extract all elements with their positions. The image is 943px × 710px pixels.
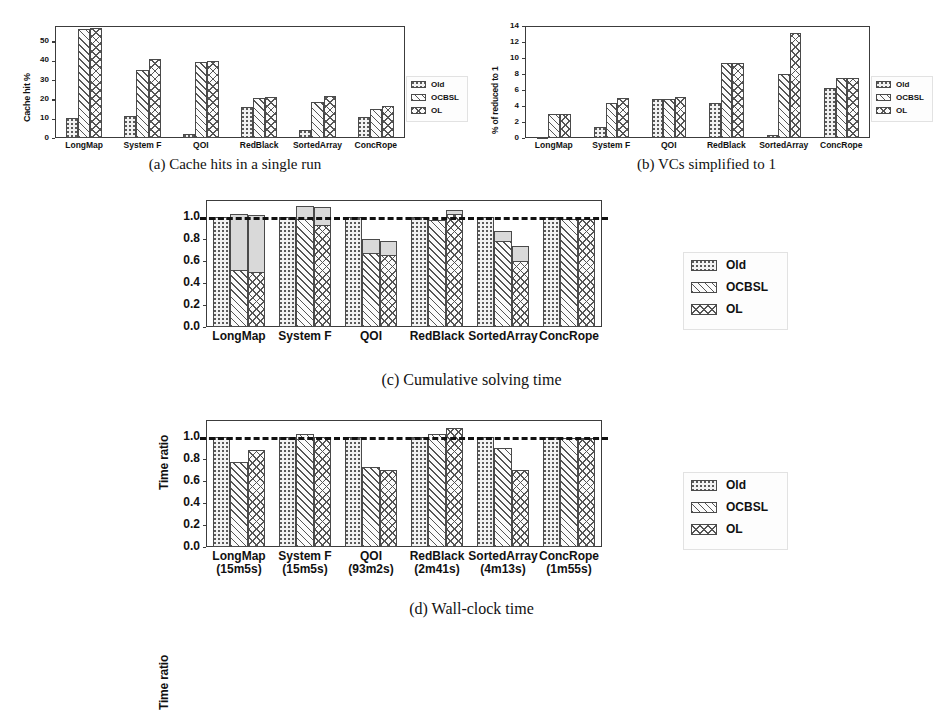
bar-longmap-old — [213, 217, 231, 327]
bar-qoi-ol — [675, 97, 687, 138]
bar-longmap-old — [66, 118, 78, 138]
y-tick-label: 12 — [507, 38, 519, 46]
y-tick-label: 0.8 — [172, 232, 200, 244]
legend-entry-ol[interactable]: OL — [876, 106, 928, 115]
panel-d-caption: (d) Wall-clock time — [0, 600, 943, 618]
bar-longmap-ocbsl — [230, 462, 248, 547]
y-tick-mark — [203, 503, 207, 504]
panel-d: Time ratio 0.00.20.40.60.81.0 LongMap(15… — [0, 405, 943, 656]
legend-swatch-ol-icon — [691, 524, 717, 535]
legend-entry-ol[interactable]: OL — [691, 302, 780, 316]
bar-sortedarray-ol — [512, 261, 530, 327]
legend-entry-ocbsl[interactable]: OCBSL — [876, 93, 928, 102]
legend-entry-ocbsl[interactable]: OCBSL — [411, 93, 463, 102]
legend-swatch-ol-icon — [691, 304, 717, 315]
y-tick-label: 0.2 — [172, 298, 200, 310]
legend-swatch-ocbsl-icon — [411, 94, 426, 101]
y-tick-mark — [52, 61, 56, 62]
panel-c-caption: (c) Cumulative solving time — [0, 371, 943, 389]
y-tick-label: 50 — [33, 37, 49, 45]
legend-entry-ol[interactable]: OL — [691, 522, 780, 536]
bar-sortedarray-ol — [790, 33, 802, 138]
y-tick-label: 0.6 — [172, 474, 200, 486]
bar-redblack-old — [709, 103, 721, 138]
x-tick-sublabel: (1m55s) — [530, 563, 608, 576]
bar-concrope-ol — [578, 438, 596, 547]
legend-entry-ocbsl[interactable]: OCBSL — [691, 500, 780, 514]
x-tick-label-concrope: ConcRope — [530, 330, 608, 343]
y-tick-label: 1.0 — [172, 210, 200, 222]
y-tick-label: 10 — [33, 114, 49, 122]
x-tick-label-system-f: System F — [579, 141, 643, 151]
bar-system-f-ocbsl — [606, 103, 618, 138]
y-tick-mark — [52, 119, 56, 120]
bar-redblack-old — [411, 437, 429, 547]
panel-a-plot-area — [55, 26, 405, 138]
bar-overhead-cap — [512, 246, 530, 261]
legend-label-ol: OL — [896, 106, 907, 115]
bar-redblack-ocbsl — [428, 220, 446, 327]
bar-system-f-old — [279, 437, 297, 547]
bar-overhead-cap — [380, 241, 398, 256]
y-tick-mark — [522, 26, 526, 27]
legend-entry-ol[interactable]: OL — [411, 106, 463, 115]
y-tick-label: 0.8 — [172, 452, 200, 464]
x-tick-label-concrope: ConcRope — [344, 141, 408, 151]
bar-sortedarray-ocbsl — [778, 74, 790, 138]
legend-entry-old[interactable]: Old — [411, 80, 463, 89]
bar-longmap-ol — [248, 272, 266, 327]
y-tick-label: 2 — [507, 118, 519, 126]
legend-label-ol: OL — [726, 302, 743, 316]
bar-qoi-old — [345, 217, 363, 327]
legend-label-ocbsl: OCBSL — [896, 93, 924, 102]
bar-sortedarray-old — [299, 130, 311, 138]
bar-system-f-ol — [617, 98, 629, 138]
bar-system-f-ol — [149, 59, 161, 138]
x-tick-label-redblack: RedBlack — [694, 141, 758, 151]
legend-swatch-old-icon — [691, 480, 717, 491]
x-tick-label-sortedarray: SortedArray — [286, 141, 350, 151]
legend-label-ol: OL — [726, 522, 743, 536]
legend-swatch-ocbsl-icon — [691, 502, 717, 513]
reference-line-1.0 — [200, 437, 608, 440]
y-tick-label: 0.0 — [172, 320, 200, 332]
y-tick-mark — [522, 138, 526, 139]
y-tick-label: 0.4 — [172, 276, 200, 288]
bar-system-f-ol — [314, 437, 332, 547]
y-tick-label: 1.0 — [172, 430, 200, 442]
y-tick-mark — [203, 239, 207, 240]
legend-entry-old[interactable]: Old — [876, 80, 928, 89]
panel-a-caption: (a) Cache hits in a single run — [0, 156, 470, 173]
bar-system-f-old — [124, 116, 136, 138]
legend-entry-ocbsl[interactable]: OCBSL — [691, 280, 780, 294]
legend-swatch-old-icon — [411, 81, 426, 88]
bar-sortedarray-old — [767, 135, 779, 138]
bar-qoi-ol — [380, 255, 398, 327]
bar-concrope-ocbsl — [560, 438, 578, 547]
legend-entry-old[interactable]: Old — [691, 478, 780, 492]
bar-system-f-ocbsl — [136, 70, 148, 138]
legend-label-ocbsl: OCBSL — [726, 500, 768, 514]
x-tick-label-qoi: QOI — [169, 141, 233, 151]
legend-label-old: Old — [896, 80, 909, 89]
legend-swatch-ocbsl-icon — [876, 94, 891, 101]
bar-concrope-ocbsl — [370, 109, 382, 138]
legend-entry-old[interactable]: Old — [691, 258, 780, 272]
y-tick-label: 8 — [507, 70, 519, 78]
bar-overhead-cap — [230, 214, 248, 270]
panel-b-plot-area — [525, 26, 870, 138]
bar-longmap-ocbsl — [78, 29, 90, 138]
bar-concrope-ol — [382, 106, 394, 138]
bar-redblack-old — [241, 107, 253, 138]
panel-c: Time ratio 0.00.20.40.60.81.0 LongMapSys… — [0, 190, 943, 400]
bar-longmap-ol — [248, 450, 266, 547]
bar-longmap-ol — [560, 114, 572, 138]
legend-swatch-ocbsl-icon — [691, 282, 717, 293]
y-tick-mark — [203, 305, 207, 306]
panel-a: Cache hit % 01020304050 LongMapSystem FQ… — [0, 0, 470, 185]
x-tick-label-sortedarray: SortedArray — [752, 141, 816, 151]
legend-swatch-ol-icon — [411, 107, 426, 114]
panel-a-legend: OldOCBSLOL — [406, 76, 468, 122]
bar-qoi-old — [652, 99, 664, 138]
